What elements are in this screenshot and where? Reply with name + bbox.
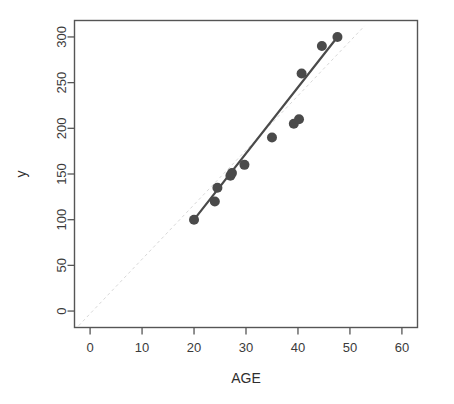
data-point — [317, 41, 327, 51]
data-point — [227, 168, 237, 178]
data-point — [297, 68, 307, 78]
x-axis-title: AGE — [231, 370, 261, 386]
plot-background — [0, 0, 454, 404]
y-tick-label: 250 — [54, 72, 69, 94]
x-tick-label: 60 — [395, 340, 409, 355]
y-tick-label: 300 — [54, 26, 69, 48]
data-point — [239, 160, 249, 170]
y-tick-label: 150 — [54, 163, 69, 185]
y-axis-title: y — [13, 171, 29, 178]
data-point — [332, 32, 342, 42]
x-tick-label: 20 — [187, 340, 201, 355]
x-tick-label: 40 — [291, 340, 305, 355]
data-point — [294, 114, 304, 124]
y-tick-label: 0 — [54, 307, 69, 314]
y-tick-label: 50 — [54, 258, 69, 272]
x-tick-label: 10 — [135, 340, 149, 355]
data-point — [212, 183, 222, 193]
data-point — [189, 215, 199, 225]
x-tick-label: 50 — [343, 340, 357, 355]
y-tick-label: 200 — [54, 117, 69, 139]
x-tick-label: 0 — [86, 340, 93, 355]
y-tick-label: 100 — [54, 209, 69, 231]
data-point — [210, 196, 220, 206]
scatter-plot: 050100150200250300 0102030405060 AGE y — [0, 0, 454, 404]
data-point — [267, 132, 277, 142]
x-tick-label: 30 — [239, 340, 253, 355]
chart-container: 050100150200250300 0102030405060 AGE y — [0, 0, 454, 404]
